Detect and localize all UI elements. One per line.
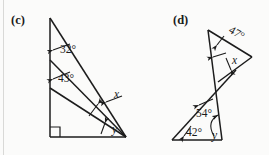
figure-c-arrow-y — [101, 123, 105, 134]
geometry-diagram: 32° 43° x y 47° — [0, 0, 269, 155]
figure-d-angle-47-label: 47° — [227, 23, 247, 42]
figure-c-angle-32-label: 32° — [60, 43, 77, 55]
figure-c-angle-43-label: 43° — [58, 72, 75, 84]
figure-d-shape: 47° x 54° 42° y — [172, 23, 252, 142]
figure-d-vertical-transversal — [208, 30, 222, 140]
figure-d-angle-x-label: x — [231, 54, 238, 66]
figure-d-angle-42-label: 42° — [186, 126, 203, 138]
figure-d-arrow-x — [226, 58, 231, 70]
figure-c-right-angle-mark — [50, 127, 60, 137]
figure-c-arrow-inner — [89, 104, 98, 116]
figure-page: (c) (d) — [0, 0, 269, 155]
figure-c-shape: 32° 43° x y — [50, 18, 126, 137]
figure-c-angle-x-label: x — [113, 88, 120, 100]
figure-c-angle-y-label: y — [111, 123, 118, 136]
figure-d-arrow-54 — [199, 99, 213, 105]
figure-d-lower-transversal — [172, 70, 236, 140]
figure-d-angle-y-label: y — [211, 129, 218, 142]
figure-d-arrow-vertex — [213, 53, 226, 57]
figure-d-angle-54-label: 54° — [196, 107, 213, 119]
